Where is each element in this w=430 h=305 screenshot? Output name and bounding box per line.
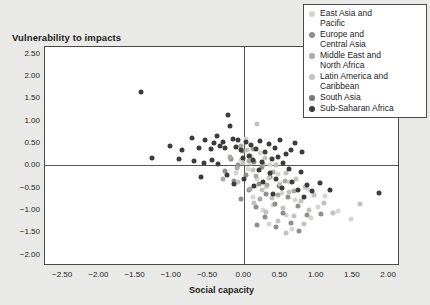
data-point: [262, 215, 267, 220]
data-point: [263, 192, 268, 197]
x-axis-tick: −2.50: [52, 270, 72, 279]
data-point: [295, 203, 300, 208]
data-point: [226, 113, 231, 118]
legend-item[interactable]: Europe and Central Asia: [308, 29, 422, 49]
data-point: [304, 213, 309, 218]
data-point: [250, 194, 255, 199]
data-point: [179, 148, 184, 153]
y-axis-tick: 2.50: [24, 48, 40, 57]
data-point: [301, 194, 306, 199]
y-axis-tick: −2.00: [20, 249, 40, 258]
data-point: [316, 204, 321, 209]
data-point: [290, 179, 295, 184]
data-point: [292, 141, 297, 146]
data-point: [301, 222, 306, 227]
chart-title: Vulnerability to impacts: [12, 32, 121, 43]
x-axis-tick: 1.50: [344, 270, 360, 279]
data-point: [250, 158, 255, 163]
legend-item[interactable]: Middle East and North Africa: [308, 50, 422, 70]
data-point: [291, 214, 296, 219]
data-point: [288, 148, 293, 153]
data-point: [288, 220, 293, 225]
data-point: [330, 210, 335, 215]
data-point: [261, 180, 266, 185]
data-point: [203, 137, 208, 142]
legend-item[interactable]: South Asia: [308, 92, 422, 102]
data-point: [327, 187, 332, 192]
legend-item[interactable]: Sub-Saharan Africa: [308, 103, 422, 113]
data-point: [358, 201, 363, 206]
data-point: [250, 167, 255, 172]
data-point: [317, 181, 322, 186]
data-point: [267, 162, 272, 167]
data-point: [272, 145, 277, 150]
data-point: [263, 209, 268, 214]
data-point: [240, 160, 245, 165]
data-point: [349, 217, 354, 222]
scatter-chart-figure: Vulnerability to impacts 2.502.001.501.0…: [0, 0, 430, 305]
data-point: [298, 199, 303, 204]
legend-item[interactable]: East Asia and Pacific: [308, 8, 422, 28]
x-axis-tick: 0.50: [272, 270, 288, 279]
data-point: [168, 143, 173, 148]
data-point: [323, 193, 328, 198]
data-point: [224, 173, 229, 178]
data-point: [259, 187, 264, 192]
data-point: [282, 178, 287, 183]
data-point: [336, 209, 341, 214]
data-point: [201, 160, 206, 165]
data-point: [281, 206, 286, 211]
data-point: [253, 174, 258, 179]
data-point: [253, 147, 258, 152]
data-point: [236, 138, 241, 143]
data-point: [279, 185, 284, 190]
data-point: [233, 171, 238, 176]
y-axis-tick-labels: 2.502.001.501.000.500.00−0.50−1.00−1.50−…: [0, 46, 40, 265]
data-point: [236, 179, 241, 184]
y-axis-tick: 1.00: [24, 115, 40, 124]
data-point: [253, 205, 258, 210]
y-axis-tick: −0.50: [20, 182, 40, 191]
legend-item[interactable]: Latin America and Caribbean: [308, 71, 422, 91]
data-point: [272, 201, 277, 206]
data-point: [197, 145, 202, 150]
data-point: [258, 197, 263, 202]
data-point: [271, 192, 276, 197]
data-point: [284, 231, 289, 236]
legend-item-label: Europe and Central Asia: [320, 29, 366, 49]
data-point: [238, 196, 243, 201]
data-point: [243, 140, 248, 145]
data-point: [240, 156, 245, 161]
data-point: [310, 189, 315, 194]
data-point: [210, 158, 215, 163]
data-point: [321, 200, 326, 205]
data-point: [256, 167, 261, 172]
data-point: [139, 90, 144, 95]
zero-line-horizontal: [45, 165, 398, 166]
x-axis-tick: −0.50: [197, 270, 217, 279]
data-point: [300, 150, 305, 155]
data-point: [255, 122, 260, 127]
x-axis-tick: 0.00: [235, 270, 251, 279]
x-axis-title: Social capacity: [44, 285, 399, 295]
data-point: [191, 158, 196, 163]
data-point: [287, 167, 292, 172]
data-point: [208, 147, 213, 152]
data-point: [292, 198, 297, 203]
data-point: [149, 156, 154, 161]
data-point: [281, 210, 286, 215]
x-axis-tick: 1.00: [308, 270, 324, 279]
data-point: [230, 136, 235, 141]
data-point: [281, 160, 286, 165]
data-point: [258, 139, 263, 144]
y-axis-tick: 0.00: [24, 160, 40, 169]
data-point: [216, 161, 221, 166]
y-axis-tick: 1.50: [24, 93, 40, 102]
y-axis-tick: −1.00: [20, 205, 40, 214]
data-point: [190, 135, 195, 140]
data-point: [297, 228, 302, 233]
data-point: [227, 124, 232, 129]
data-point: [285, 194, 290, 199]
y-axis-tick: 2.00: [24, 71, 40, 80]
data-point: [259, 159, 264, 164]
